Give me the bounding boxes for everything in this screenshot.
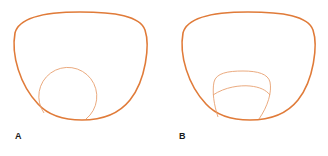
segment-divider-b	[213, 86, 270, 95]
panel-label-b: B	[179, 131, 186, 141]
diagram-canvas	[0, 0, 328, 156]
panel-b	[182, 12, 315, 120]
segment-outline-b	[213, 71, 270, 119]
panel-label-a: A	[15, 131, 22, 141]
lens-outline-b	[182, 12, 315, 120]
panel-a	[14, 12, 147, 120]
lens-outline-a	[14, 12, 147, 120]
